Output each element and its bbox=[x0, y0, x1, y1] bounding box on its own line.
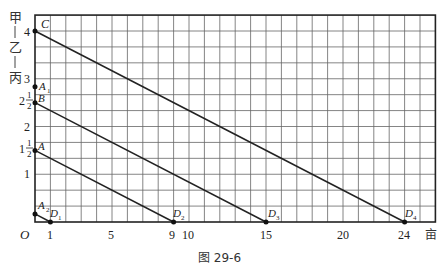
point-label-d4: D 4 bbox=[404, 207, 417, 222]
svg-text:2: 2 bbox=[181, 214, 185, 222]
point-A1 bbox=[33, 84, 38, 89]
y-label-bing: 丙 bbox=[9, 70, 22, 85]
svg-text:3: 3 bbox=[276, 214, 280, 222]
point-C bbox=[33, 29, 38, 34]
x-tick-10: 10 bbox=[182, 228, 194, 242]
y-tick-4: 4 bbox=[24, 25, 30, 39]
svg-text:D: D bbox=[172, 207, 181, 219]
svg-text:A: A bbox=[37, 199, 45, 211]
svg-text:D: D bbox=[49, 207, 58, 219]
svg-text:1: 1 bbox=[19, 142, 25, 156]
svg-text:4: 4 bbox=[413, 214, 417, 222]
svg-text:1: 1 bbox=[58, 214, 62, 222]
x-tick-5: 5 bbox=[108, 228, 114, 242]
y-tick-2-1-2: 2 1 2 bbox=[19, 90, 33, 111]
point-D1 bbox=[48, 220, 53, 225]
line-B-D3 bbox=[35, 103, 266, 222]
x-tick-1: 1 bbox=[47, 228, 53, 242]
origin-label: O bbox=[20, 227, 30, 242]
point-label-c: C bbox=[41, 17, 50, 31]
figure-caption: 图 29-6 bbox=[198, 251, 241, 265]
svg-text:2: 2 bbox=[19, 94, 25, 108]
svg-text:2: 2 bbox=[27, 101, 32, 111]
y-tick-1-1-2: 1 1 2 bbox=[19, 138, 33, 159]
x-tick-15: 15 bbox=[260, 228, 272, 242]
y-tick-1: 1 bbox=[24, 167, 30, 181]
point-A bbox=[33, 148, 38, 153]
y-tick-2: 2 bbox=[24, 120, 30, 134]
y-label-yi: 乙 bbox=[9, 40, 22, 55]
y-tick-3: 3 bbox=[24, 72, 30, 86]
y-label-jia: 甲 bbox=[9, 10, 22, 25]
diagram-figure: 甲 乙 丙 4 3 2 1 2 1 2 1 1 2 O 1 5 9 10 15 … bbox=[0, 0, 448, 271]
line-A2-D1 bbox=[35, 214, 50, 222]
point-D3 bbox=[264, 220, 269, 225]
point-label-a: A bbox=[37, 140, 45, 152]
point-label-b: B bbox=[38, 92, 45, 104]
svg-text:1: 1 bbox=[47, 87, 51, 95]
point-label-a2: A 2 bbox=[37, 199, 50, 214]
x-tick-20: 20 bbox=[337, 228, 349, 242]
point-D2 bbox=[171, 220, 176, 225]
point-A2 bbox=[33, 211, 38, 216]
point-label-d3: D 3 bbox=[267, 207, 280, 222]
svg-text:D: D bbox=[267, 207, 276, 219]
svg-text:A: A bbox=[38, 80, 46, 92]
svg-text:2: 2 bbox=[27, 149, 32, 159]
x-tick-24: 24 bbox=[398, 228, 410, 242]
x-tick-9: 9 bbox=[169, 228, 175, 242]
svg-text:D: D bbox=[404, 207, 413, 219]
point-B bbox=[33, 100, 38, 105]
grid bbox=[35, 15, 435, 222]
x-unit-label: 亩 bbox=[425, 227, 437, 242]
svg-text:1: 1 bbox=[27, 138, 32, 148]
point-D4 bbox=[402, 220, 407, 225]
svg-text:1: 1 bbox=[27, 90, 32, 100]
